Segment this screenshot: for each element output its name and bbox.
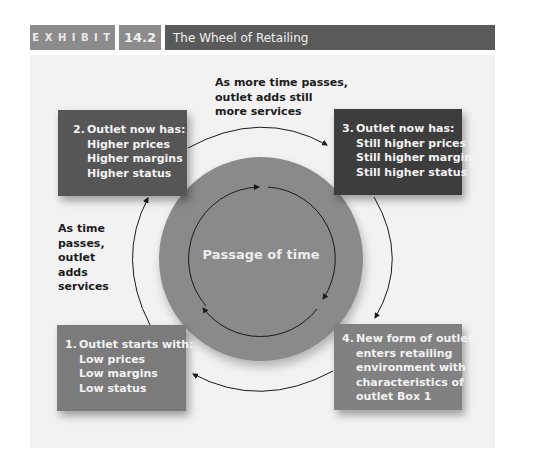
stage-line: Higher margins <box>73 152 187 167</box>
annotation-left: As time passes, outlet adds services <box>58 222 109 295</box>
stage-heading: Outlet starts with: <box>79 338 193 351</box>
stage-heading: New form of outlet <box>356 332 473 345</box>
inner-ring-arrows <box>189 187 336 337</box>
stage-line: Still higher prices <box>342 137 462 152</box>
stage-line: characteristics of <box>342 376 462 391</box>
annotation-line: outlet adds still <box>215 91 348 106</box>
stage-box-1: 1.Outlet starts with: Low prices Low mar… <box>57 325 186 411</box>
stage-line: Low prices <box>65 353 186 368</box>
annotation-line: outlet <box>58 251 109 266</box>
stage-box-2: 2.Outlet now has: Higher prices Higher m… <box>58 110 187 196</box>
stage-line: Higher prices <box>73 138 187 153</box>
stage-heading: Outlet now has: <box>87 123 185 136</box>
stage-number: 4. <box>342 332 356 347</box>
stage-number: 1. <box>65 338 79 353</box>
stage-number: 2. <box>73 123 87 138</box>
stage-line: Still higher margins <box>342 151 462 166</box>
stage-line: enters retailing <box>342 347 462 362</box>
annotation-line: passes, <box>58 237 109 252</box>
stage-number: 3. <box>342 122 356 137</box>
stage-box-3: 3.Outlet now has: Still higher prices St… <box>334 109 462 195</box>
annotation-line: services <box>58 280 109 295</box>
stage-line: Low status <box>65 382 186 397</box>
annotation-top: As more time passes, outlet adds still m… <box>215 76 348 120</box>
annotation-line: As more time passes, <box>215 76 348 91</box>
annotation-line: more services <box>215 105 348 120</box>
annotation-line: adds <box>58 266 109 281</box>
stage-line: Higher status <box>73 167 187 182</box>
annotation-line: As time <box>58 222 109 237</box>
stage-box-4: 4.New form of outlet enters retailing en… <box>334 324 462 410</box>
stage-line: Still higher status <box>342 166 462 181</box>
stage-line: Low margins <box>65 367 186 382</box>
stage-line: environment with <box>342 361 462 376</box>
stage-heading: Outlet now has: <box>356 122 454 135</box>
stage-line: outlet Box 1 <box>342 390 462 405</box>
